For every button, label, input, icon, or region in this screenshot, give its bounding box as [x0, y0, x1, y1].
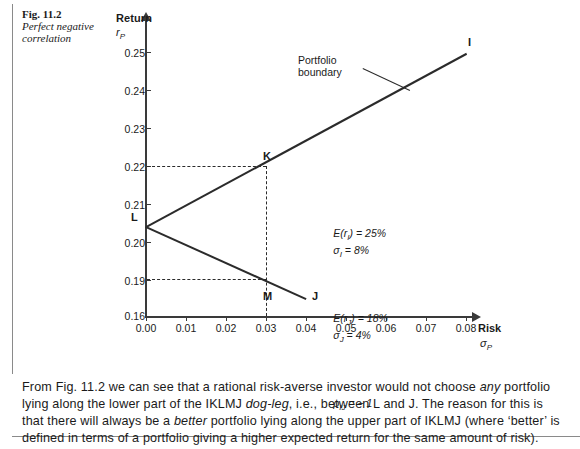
y-axis-label-symbol: rP — [116, 26, 125, 41]
x-axis-arrow-icon — [472, 312, 481, 322]
chart-area: Return rP Risk σP 0.25 0.24 0.23 0.22 0.… — [120, 6, 520, 351]
x-tick-label: 0.08 — [449, 322, 483, 334]
x-tick-label: 0.01 — [169, 322, 203, 334]
x-tick — [266, 316, 267, 321]
point-label-L: L — [131, 211, 138, 223]
k-horizontal-guide — [147, 166, 266, 167]
stats-expected-return-J: E(rJ) = 18% — [333, 312, 391, 330]
body-paragraph: From Fig. 11.2 we can see that a rationa… — [22, 379, 567, 447]
upper-boundary-segment — [146, 53, 467, 228]
x-tick — [426, 316, 427, 321]
y-tick-label: 0.21 — [115, 199, 145, 211]
y-tick — [145, 128, 151, 129]
y-tick — [145, 90, 151, 91]
stats-expected-return-I: E(rI) = 25% — [333, 227, 391, 245]
x-tick — [226, 316, 227, 321]
x-tick-label: 0.07 — [409, 322, 443, 334]
y-tick-label: 0.20 — [115, 237, 145, 249]
y-tick — [145, 52, 151, 53]
annotation-line-1: Portfolio — [298, 54, 337, 66]
x-axis-label-symbol: σP — [480, 337, 492, 352]
y-tick-label: 0.23 — [115, 123, 145, 135]
portfolio-boundary-annotation: Portfolio boundary — [298, 54, 342, 78]
y-tick — [145, 280, 151, 281]
x-tick-label: 0.02 — [209, 322, 243, 334]
stats-row-1: E(rI) = 25% σI = 8% — [310, 214, 391, 274]
point-label-I: I — [468, 36, 471, 48]
y-tick-label: 0.19 — [115, 275, 145, 287]
point-label-M: M — [263, 290, 272, 302]
y-tick — [145, 204, 151, 205]
x-tick-label: 0.00 — [129, 322, 163, 334]
stats-sigma-I: σI = 8% — [333, 244, 369, 256]
x-tick — [306, 316, 307, 321]
m-horizontal-guide — [147, 279, 266, 280]
x-tick — [466, 316, 467, 321]
x-tick-label: 0.03 — [249, 322, 283, 334]
y-tick-label: 0.25 — [115, 47, 145, 59]
y-tick-label: 0.16 — [115, 310, 145, 322]
point-label-K: K — [263, 150, 271, 162]
y-axis-label: Return — [116, 12, 152, 24]
x-tick — [186, 316, 187, 321]
y-axis — [145, 20, 147, 318]
y-tick-label: 0.24 — [115, 85, 145, 97]
lower-boundary-segment — [145, 226, 306, 300]
annotation-leader-line — [362, 68, 410, 91]
y-tick — [145, 242, 151, 243]
stats-sigma-J: σJ = 4% — [333, 329, 371, 341]
left-margin-rule — [12, 4, 13, 374]
annotation-line-2: boundary — [298, 66, 342, 78]
stats-row-2: E(rJ) = 18% σJ = 4% — [310, 299, 391, 359]
x-tick — [146, 316, 147, 321]
y-tick-label: 0.22 — [115, 161, 145, 173]
